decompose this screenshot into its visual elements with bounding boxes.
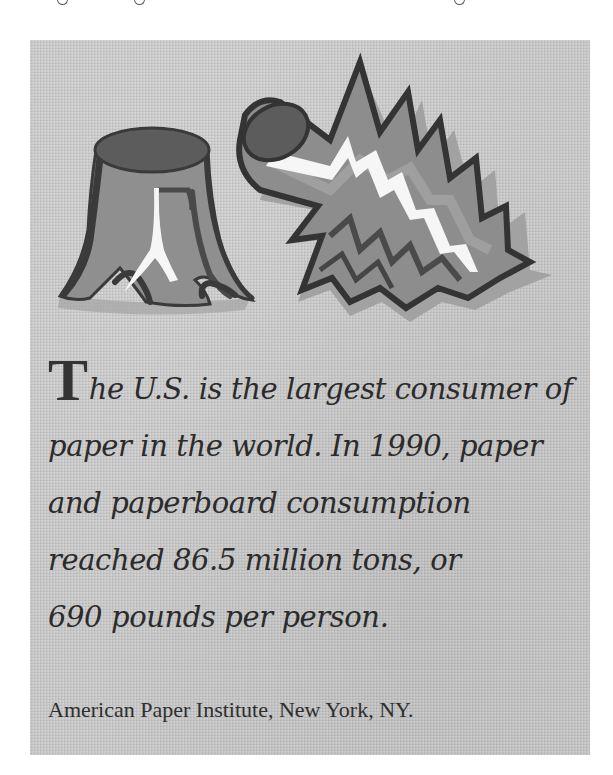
fact-line-5: 690 pounds per person. <box>48 589 588 646</box>
drop-cap: T <box>48 347 88 413</box>
glyph-fragment <box>57 0 68 5</box>
fact-paragraph: The U.S. is the largest consumer of pape… <box>48 360 588 646</box>
fact-line-1: The U.S. is the largest consumer of <box>48 360 588 418</box>
fact-line-2: paper in the world. In 1990, paper <box>48 418 588 475</box>
stump-and-log-illustration <box>30 40 590 370</box>
glyph-fragment <box>134 0 145 5</box>
tree-stump-icon <box>58 128 252 315</box>
fact-panel: The U.S. is the largest consumer of pape… <box>30 40 590 755</box>
glyph-fragment <box>454 0 465 5</box>
fact-line-3: and paperboard consumption <box>48 475 588 532</box>
felled-log-icon <box>234 62 552 322</box>
fact-line-text: he U.S. is the largest consumer of <box>89 372 573 406</box>
source-citation: American Paper Institute, New York, NY. <box>48 697 414 723</box>
fact-line-4: reached 86.5 million tons, or <box>48 532 588 589</box>
previous-page-text-fragments <box>0 0 613 8</box>
